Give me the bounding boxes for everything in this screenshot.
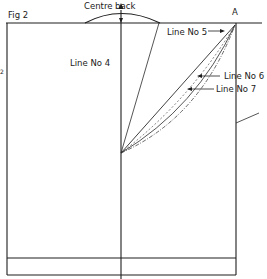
point-a-label: A — [232, 7, 238, 17]
line-no-4 — [121, 23, 159, 153]
edge-tick-line — [236, 113, 259, 123]
line-4-label: Line No 4 — [70, 58, 110, 68]
line-6-label: Line No 6 — [224, 71, 264, 81]
figure-label: Fig 2 — [8, 10, 28, 20]
arrow-right-icon — [220, 29, 225, 33]
diagram-canvas: Fig 2 Centre back A Line No 4 Line No 5 … — [0, 0, 267, 279]
line-5-label: Line No 5 — [167, 27, 207, 37]
centre-back-label: Centre back — [84, 1, 135, 11]
arrow-head-icon — [119, 18, 123, 23]
arrow-left-icon — [187, 87, 192, 91]
pattern-diagram: Fig 2 Centre back A Line No 4 Line No 5 … — [0, 0, 267, 279]
line-7-label: Line No 7 — [216, 84, 256, 94]
arrow-left-icon — [197, 74, 202, 78]
edge-mark-label: 2 — [0, 68, 4, 75]
